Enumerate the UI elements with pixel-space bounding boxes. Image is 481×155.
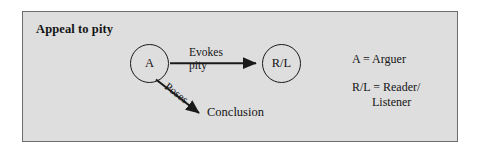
legend-entry-reader-listener-continuation: Listener — [352, 95, 420, 110]
page-title: Appeal to pity — [36, 22, 113, 37]
edge-label-evokes-pity: Evokes pity — [189, 46, 223, 72]
node-conclusion-label: Conclusion — [207, 105, 264, 120]
legend-entry-reader-listener: R/L = Reader/ Listener — [352, 80, 420, 110]
edge-label-evokes-pity-line2: pity — [189, 59, 223, 72]
node-arguer: A — [130, 44, 169, 83]
legend-entry-arguer-term: A = Arguer — [352, 52, 406, 66]
node-reader-listener-label: R/L — [272, 57, 291, 70]
legend: A = Arguer R/L = Reader/ Listener — [352, 52, 420, 110]
legend-entry-reader-listener-term: R/L = Reader/ — [352, 80, 420, 94]
node-arguer-label: A — [145, 57, 154, 70]
legend-entry-arguer: A = Arguer — [352, 52, 420, 67]
edge-label-evokes-pity-line1: Evokes — [189, 46, 223, 59]
diagram-canvas: Appeal to pity A R/L Conclusion Evokes p… — [0, 0, 481, 155]
node-reader-listener: R/L — [262, 44, 301, 83]
